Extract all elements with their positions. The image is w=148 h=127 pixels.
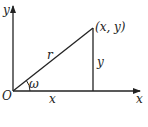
angle-label: ω [29, 77, 39, 91]
point-label: (x, y) [95, 20, 126, 34]
vertical-leg-label: y [96, 55, 104, 69]
y-axis-label: y [2, 3, 10, 17]
x-axis-label: x [136, 92, 143, 106]
horizontal-leg-label: x [49, 92, 56, 106]
origin-label: O [2, 89, 12, 103]
polar-coordinate-diagram: y x O (x, y) r y x ω [0, 0, 148, 127]
radius-line [13, 28, 93, 91]
